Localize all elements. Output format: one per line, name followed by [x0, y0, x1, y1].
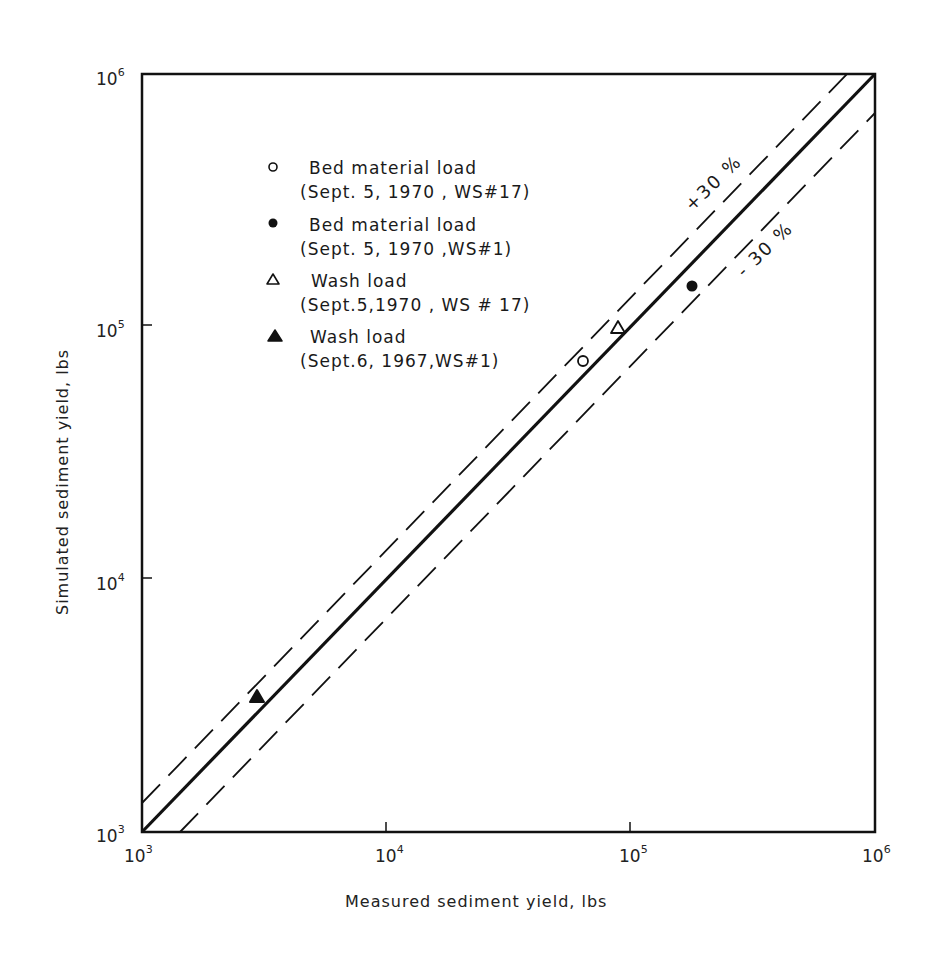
x-tick-labels: 103 104 105 106: [124, 843, 891, 866]
legend-item-3-line2: (Sept.5,1970 , WS # 17): [300, 295, 530, 315]
minus-30-line: [180, 113, 875, 832]
legend-item-1-line2: (Sept. 5, 1970 , WS#17): [300, 182, 530, 202]
svg-text:106: 106: [96, 66, 125, 89]
point-filled-circle: [687, 281, 698, 292]
y-ticks: [142, 325, 152, 578]
legend-item-2-line2: (Sept. 5, 1970 ,WS#1): [300, 239, 512, 259]
legend-item-4-line2: (Sept.6, 1967,WS#1): [300, 351, 499, 371]
svg-text:105: 105: [619, 843, 648, 866]
point-open-circle: [578, 356, 588, 366]
svg-text:104: 104: [375, 843, 404, 866]
legend: Bed material load (Sept. 5, 1970 , WS#17…: [267, 158, 530, 371]
legend-item-3-line1: Wash load: [311, 271, 408, 291]
legend-item-1-line1: Bed material load: [309, 158, 477, 178]
point-open-triangle: [611, 321, 625, 333]
legend-filled-triangle-icon: [268, 330, 282, 341]
legend-item-4-line1: Wash load: [310, 327, 407, 347]
svg-text:106: 106: [862, 843, 891, 866]
svg-text:103: 103: [124, 843, 153, 866]
legend-open-circle-icon: [269, 163, 277, 171]
legend-open-triangle-icon: [267, 274, 279, 284]
y-tick-labels: 103 104 105 106: [96, 66, 125, 846]
legend-filled-circle-icon: [269, 219, 278, 228]
point-filled-triangle: [250, 690, 264, 702]
plus-30-label: +30 %: [680, 151, 746, 215]
svg-text:103: 103: [96, 823, 125, 846]
chart-canvas: 103 104 105 106 103 104 105 106 Measured…: [0, 0, 945, 966]
svg-text:104: 104: [96, 571, 125, 594]
x-axis-title: Measured sediment yield, lbs: [345, 892, 607, 911]
y-axis-title: Simulated sediment yield, lbs: [53, 349, 72, 615]
legend-item-2-line1: Bed material load: [309, 215, 477, 235]
x-ticks: [386, 822, 630, 832]
svg-text:105: 105: [96, 318, 125, 341]
